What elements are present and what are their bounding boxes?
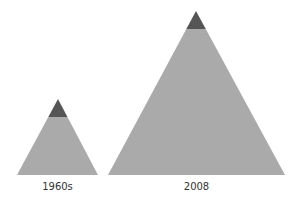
pyramid-1960s — [17, 99, 98, 175]
pyramid-diagram — [0, 0, 300, 205]
pyramid-2008-tip — [186, 11, 205, 29]
pyramid-1960s-body — [17, 117, 98, 175]
pyramid-2008 — [108, 11, 285, 175]
pyramid-1960s-tip — [48, 99, 67, 117]
label-1960s: 1960s — [42, 181, 73, 192]
pyramid-2008-body — [108, 29, 285, 175]
label-2008: 2008 — [184, 181, 209, 192]
